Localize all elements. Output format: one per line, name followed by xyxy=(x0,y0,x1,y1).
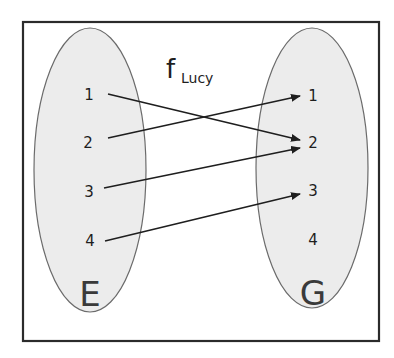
function-name: f xyxy=(166,54,176,84)
codomain-element-3: 3 xyxy=(308,182,318,200)
codomain-label: G xyxy=(300,273,326,313)
domain-label: E xyxy=(79,274,100,314)
codomain-ellipse xyxy=(256,28,368,308)
function-diagram: 1 2 3 4 E 1 2 3 4 G f Lucy xyxy=(0,0,394,358)
domain-element-3: 3 xyxy=(84,183,94,201)
domain-element-2: 2 xyxy=(83,134,93,152)
domain-set-e: 1 2 3 4 E xyxy=(34,28,146,314)
domain-element-4: 4 xyxy=(85,232,95,250)
codomain-element-4: 4 xyxy=(308,231,318,249)
codomain-element-1: 1 xyxy=(308,87,318,105)
function-subscript: Lucy xyxy=(181,70,213,86)
domain-ellipse xyxy=(34,28,146,312)
codomain-element-2: 2 xyxy=(308,134,318,152)
domain-element-1: 1 xyxy=(84,86,94,104)
